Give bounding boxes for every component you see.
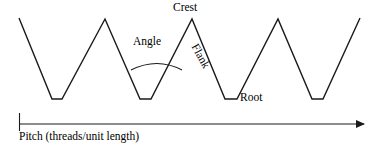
crest-label: Crest	[173, 2, 197, 14]
root-label: Root	[240, 92, 262, 104]
angle-arc-indicator	[131, 64, 182, 71]
thread-profile-graphic	[0, 0, 383, 148]
thread-profile-diagram: Crest Angle Flank Root Pitch (threads/un…	[0, 0, 383, 148]
angle-label: Angle	[133, 36, 161, 48]
pitch-label: Pitch (threads/unit length)	[19, 131, 139, 143]
thread-waveform-path	[19, 18, 360, 99]
